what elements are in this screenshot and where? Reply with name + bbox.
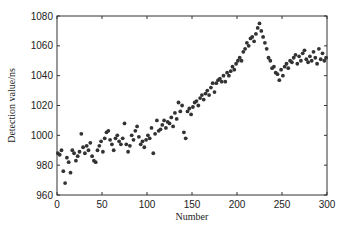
data-point [252, 39, 256, 43]
data-point [159, 127, 163, 131]
data-point [72, 151, 76, 155]
data-point [85, 144, 89, 148]
data-point [123, 122, 127, 126]
data-point [207, 93, 211, 97]
x-tick-label: 200 [229, 199, 246, 210]
x-tick-label: 150 [184, 199, 201, 210]
data-point [177, 101, 181, 105]
data-point [308, 54, 312, 58]
data-point [119, 142, 123, 146]
x-axis-label: Number [176, 211, 209, 222]
data-point [103, 136, 107, 140]
data-point [222, 74, 226, 78]
data-point [108, 138, 112, 142]
data-point [211, 81, 215, 85]
data-point [76, 154, 80, 158]
data-point [240, 59, 244, 63]
data-point [182, 130, 186, 134]
data-point [294, 53, 298, 57]
data-point [297, 54, 301, 58]
data-point [128, 144, 132, 148]
data-point [97, 144, 101, 148]
data-point [227, 74, 231, 78]
data-point [317, 47, 321, 51]
y-tick-label: 1080 [31, 11, 54, 22]
data-point [88, 141, 92, 145]
data-point [79, 132, 83, 136]
axes: 0501001502002503009609801000102010401060… [31, 11, 336, 211]
data-point [254, 32, 258, 36]
data-point [315, 62, 319, 66]
data-point [171, 124, 175, 128]
data-point [101, 150, 105, 154]
scatter-chart: 0501001502002503009609801000102010401060… [0, 0, 354, 231]
data-point [141, 139, 145, 143]
data-point [223, 80, 227, 84]
data-point [58, 153, 62, 157]
data-point [169, 116, 173, 120]
data-point [173, 111, 177, 115]
data-point [78, 150, 82, 154]
data-point [310, 59, 314, 63]
data-point [137, 135, 141, 139]
data-point [63, 181, 67, 185]
data-point [151, 151, 155, 155]
data-point [90, 154, 94, 158]
data-point [144, 138, 148, 142]
data-point [60, 148, 64, 152]
data-point [290, 60, 294, 64]
data-point [94, 160, 98, 164]
data-point [229, 69, 233, 73]
data-point [209, 86, 213, 90]
x-tick-label: 250 [274, 199, 291, 210]
x-tick-label: 0 [54, 199, 60, 210]
data-point [135, 124, 139, 128]
data-point [121, 136, 125, 140]
data-point [61, 169, 65, 173]
data-point [312, 50, 316, 54]
data-point [69, 171, 73, 175]
data-point [213, 90, 217, 94]
data-point [247, 44, 251, 48]
y-tick-label: 960 [36, 190, 53, 201]
data-point [124, 142, 128, 146]
data-point [106, 129, 110, 133]
y-tick-label: 1000 [31, 130, 54, 141]
data-point [313, 56, 317, 60]
data-point [285, 62, 289, 66]
data-point [115, 133, 119, 137]
data-point [259, 29, 263, 33]
data-point [202, 98, 206, 102]
data-point [184, 136, 188, 140]
data-point [243, 47, 247, 51]
data-point [67, 160, 71, 164]
data-point [150, 126, 154, 130]
data-point [195, 99, 199, 103]
data-point [200, 93, 204, 97]
data-point [155, 119, 159, 123]
data-point [319, 57, 323, 61]
data-point [160, 123, 164, 127]
data-point [162, 119, 166, 123]
data-point [130, 133, 134, 137]
data-point [281, 74, 285, 78]
data-point [286, 66, 290, 70]
data-point [265, 47, 269, 51]
y-tick-label: 1060 [31, 40, 54, 51]
data-point [180, 104, 184, 108]
data-point [306, 60, 310, 64]
data-point [268, 59, 272, 63]
data-point [164, 126, 168, 130]
data-point [250, 35, 254, 39]
y-tick-label: 1040 [31, 70, 54, 81]
data-point [196, 104, 200, 108]
data-point [205, 89, 209, 93]
data-point [65, 156, 69, 160]
data-point [99, 139, 103, 143]
data-point [295, 62, 299, 66]
data-point [303, 48, 307, 52]
data-point [276, 72, 280, 76]
data-point [279, 68, 283, 72]
data-point [87, 148, 91, 152]
y-tick-label: 1020 [31, 100, 54, 111]
